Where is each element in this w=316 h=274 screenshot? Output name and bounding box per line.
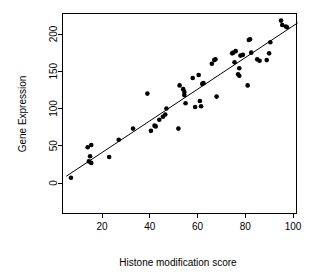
data-point xyxy=(257,59,262,64)
data-point xyxy=(182,90,187,95)
x-tick-label: 100 xyxy=(285,221,302,232)
x-tick-label: 80 xyxy=(240,221,252,232)
data-point xyxy=(201,81,206,86)
data-point xyxy=(249,50,254,55)
data-point xyxy=(196,73,201,78)
data-point xyxy=(233,49,238,54)
data-point xyxy=(237,73,242,78)
data-point xyxy=(153,124,158,129)
data-point xyxy=(176,126,181,131)
data-point xyxy=(213,57,218,62)
x-axis-title: Histone modification score xyxy=(119,257,237,268)
data-point xyxy=(237,66,242,71)
data-point xyxy=(285,25,290,30)
y-tick-label: 50 xyxy=(48,140,59,152)
y-tick-label: 100 xyxy=(48,100,59,117)
y-axis-title: Gene Expression xyxy=(17,76,28,153)
data-point xyxy=(69,175,74,180)
data-point xyxy=(199,104,204,109)
data-point xyxy=(241,53,246,58)
data-point xyxy=(214,94,219,99)
data-point xyxy=(183,101,188,106)
data-point xyxy=(268,40,273,45)
y-tick-label: 200 xyxy=(48,25,59,42)
data-point xyxy=(245,83,250,88)
data-point xyxy=(149,129,154,134)
scatter-plot-figure: 050100150200 20406080100 Histone modific… xyxy=(0,0,316,274)
data-point xyxy=(163,112,168,117)
data-point xyxy=(279,18,284,23)
data-point xyxy=(157,117,162,122)
data-point xyxy=(190,76,195,81)
data-point xyxy=(164,106,169,111)
data-point xyxy=(264,58,269,63)
data-point xyxy=(131,126,136,131)
data-point xyxy=(248,37,253,42)
data-point xyxy=(116,137,121,142)
data-point xyxy=(88,154,93,159)
y-tick-label: 150 xyxy=(48,62,59,79)
chart-canvas: 050100150200 20406080100 Histone modific… xyxy=(0,0,316,274)
data-point xyxy=(145,91,150,96)
x-tick-label: 40 xyxy=(144,221,156,232)
data-point xyxy=(198,99,203,104)
data-point xyxy=(177,83,182,88)
data-point xyxy=(107,155,112,160)
x-tick-label: 20 xyxy=(96,221,108,232)
data-point xyxy=(232,60,237,65)
x-tick-label: 60 xyxy=(192,221,204,232)
data-point xyxy=(193,105,198,110)
data-point xyxy=(89,143,94,148)
y-tick-label: 0 xyxy=(48,180,59,186)
data-point xyxy=(89,161,94,166)
data-point xyxy=(267,51,272,56)
